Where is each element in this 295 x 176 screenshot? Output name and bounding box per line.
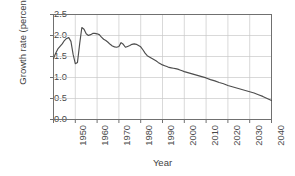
plot-area (0, 0, 295, 176)
axis-ticks (50, 15, 272, 124)
growth-rate-line-chart: Growth rate (percent) Year 2.5 2.0 1.5 1… (0, 0, 295, 176)
gridlines (54, 15, 272, 120)
